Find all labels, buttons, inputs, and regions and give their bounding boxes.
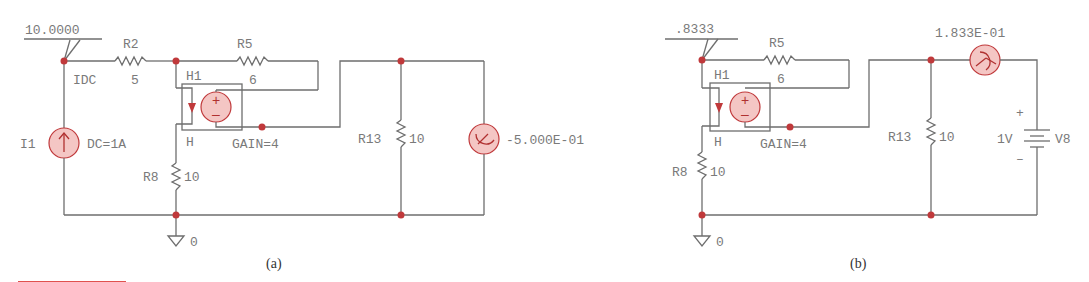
r8-label-a: R8 — [143, 170, 159, 185]
svg-text:–: – — [741, 106, 749, 122]
h1-label-a: H1 — [186, 69, 202, 84]
r13-value-a: 10 — [409, 132, 425, 147]
r13-value-b: 10 — [939, 130, 955, 145]
resistor-r13-a — [397, 120, 405, 147]
resistor-r5-b — [764, 56, 795, 64]
resistor-r13-b — [927, 118, 935, 145]
current-arrow-a — [188, 103, 196, 113]
r5-label-b: R5 — [769, 36, 785, 51]
ground-label-a: 0 — [190, 235, 198, 250]
resistor-r5-a — [237, 57, 268, 65]
v8-plus: + — [1016, 106, 1024, 121]
h1-sub-a: H — [186, 135, 194, 150]
r8-value-a: 10 — [184, 170, 200, 185]
circuit-a: 10.0000 R2 5 IDC R5 6 H1 + – H GAIN=4 — [18, 23, 584, 282]
circuit-b: .8333 R5 6 H1 + – H GAIN=4 R8 10 — [665, 22, 1071, 272]
v8-minus: – — [1016, 152, 1024, 167]
r5-label-a: R5 — [237, 37, 253, 52]
ammeter-reading-b: 1.833E-01 — [935, 26, 1005, 41]
battery-icon-v8 — [1024, 130, 1050, 147]
i1-label: I1 — [20, 137, 36, 152]
v8-value: 1V — [997, 132, 1013, 147]
caption-a: (a) — [266, 256, 282, 272]
resistor-r8-b — [698, 152, 706, 179]
ammeter-reading-a: -5.000E-01 — [506, 133, 584, 148]
ground-icon-a — [168, 236, 184, 246]
ammeter-icon-a — [469, 124, 499, 154]
circuit-diagrams: 10.0000 R2 5 IDC R5 6 H1 + – H GAIN=4 — [0, 0, 1089, 282]
ammeter-icon-b — [970, 45, 1000, 75]
r2-value: 5 — [131, 73, 139, 88]
ground-icon-b — [694, 236, 710, 246]
i1-value: DC=1A — [87, 137, 126, 152]
h1-label-b: H1 — [714, 68, 730, 83]
idc-label: IDC — [73, 73, 97, 88]
caption-b: (b) — [850, 256, 867, 272]
node-voltage-a: 10.0000 — [25, 23, 80, 38]
ground-label-b: 0 — [716, 235, 724, 250]
r13-label-b: R13 — [888, 130, 911, 145]
r8-label-b: R8 — [672, 165, 688, 180]
current-arrow-b — [715, 103, 723, 113]
resistor-r2 — [115, 57, 146, 65]
node-voltage-b: .8333 — [675, 22, 714, 37]
r5-value-b: 6 — [777, 72, 785, 87]
h1-sub-b: H — [714, 135, 722, 150]
svg-text:–: – — [212, 106, 220, 122]
r5-value-a: 6 — [249, 73, 257, 88]
r8-value-b: 10 — [710, 165, 726, 180]
h1-gain-a: GAIN=4 — [232, 137, 279, 152]
r2-label: R2 — [123, 37, 139, 52]
h1-gain-b: GAIN=4 — [760, 137, 807, 152]
r13-label-a: R13 — [358, 132, 381, 147]
resistor-r8-a — [172, 163, 180, 190]
v8-label: V8 — [1055, 132, 1071, 147]
